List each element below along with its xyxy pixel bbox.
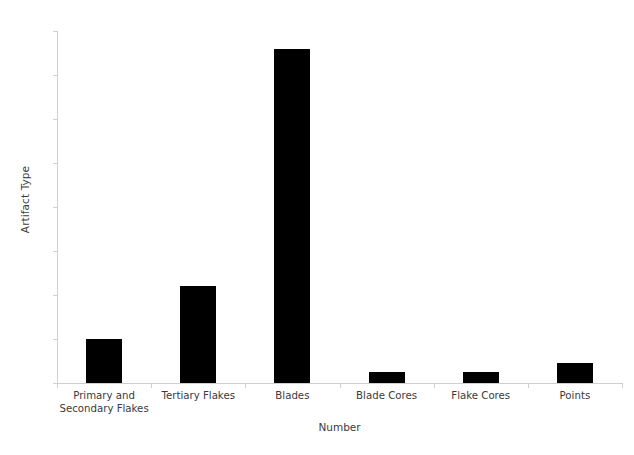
x-tick-label-line: Blades [245,389,339,402]
y-tick-mark [53,251,57,252]
bar [463,372,499,383]
bar-chart-figure: Artifact Type 0510152025303540 Primary a… [0,0,634,455]
bar [274,49,310,383]
x-tick-mark [434,383,435,388]
y-axis-title: Artifact Type [14,0,36,427]
y-tick-mark [53,295,57,296]
y-tick-mark [53,119,57,120]
y-tick-mark [53,163,57,164]
x-tick-label-line: Primary and [57,389,151,402]
y-tick-mark [53,207,57,208]
x-tick-mark [340,383,341,388]
x-tick-mark [622,383,623,388]
plot-area: 0510152025303540 Primary andSecondary Fl… [57,31,622,383]
y-axis-title-container: Artifact Type [14,0,36,427]
x-tick-label: Tertiary Flakes [151,389,245,402]
y-tick-mark [53,75,57,76]
x-tick-label-line: Tertiary Flakes [151,389,245,402]
bar [557,363,593,383]
x-tick-label: Blade Cores [340,389,434,402]
y-tick-mark [53,339,57,340]
x-tick-label: Primary andSecondary Flakes [57,389,151,415]
x-tick-label-line: Secondary Flakes [57,402,151,415]
x-tick-label: Points [528,389,622,402]
bar [369,372,405,383]
x-axis-title: Number [57,421,622,433]
bar [180,286,216,383]
x-tick-mark [151,383,152,388]
x-tick-label-line: Blade Cores [340,389,434,402]
x-tick-label-line: Flake Cores [434,389,528,402]
y-axis-line [57,31,58,383]
y-tick-mark [53,31,57,32]
x-tick-label-line: Points [528,389,622,402]
x-tick-mark [57,383,58,388]
x-tick-label: Blades [245,389,339,402]
x-tick-label: Flake Cores [434,389,528,402]
x-tick-mark [528,383,529,388]
bar [86,339,122,383]
x-tick-mark [245,383,246,388]
